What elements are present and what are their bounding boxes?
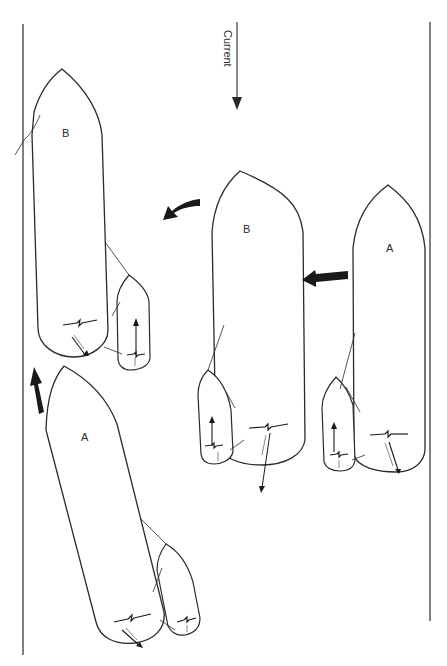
ship-b-left: B xyxy=(15,69,108,357)
advance-arrow-icon xyxy=(30,367,44,414)
diagram-canvas: Current B B xyxy=(0,0,447,666)
ship-b-middle-label: B xyxy=(243,223,250,235)
tug-hull xyxy=(117,275,150,370)
tug-line xyxy=(340,333,355,389)
ship-a-bottom: A xyxy=(46,366,164,648)
ship-b-left-hull xyxy=(32,69,108,357)
tug-left-b xyxy=(104,242,150,370)
current-label: Current xyxy=(222,30,234,67)
ship-b-left-label: B xyxy=(62,127,69,139)
mooring-maneuver-diagram: Current B B xyxy=(0,0,447,666)
ship-a-right-label: A xyxy=(386,242,394,254)
tug-line xyxy=(105,242,129,275)
ship-a-right: A xyxy=(353,185,425,474)
push-arrow-icon xyxy=(302,270,348,287)
ship-a-right-hull xyxy=(353,185,425,472)
ship-a-bottom-hull xyxy=(46,366,164,643)
ship-a-bottom-label: A xyxy=(81,431,89,443)
swing-arrow-icon xyxy=(163,199,200,220)
